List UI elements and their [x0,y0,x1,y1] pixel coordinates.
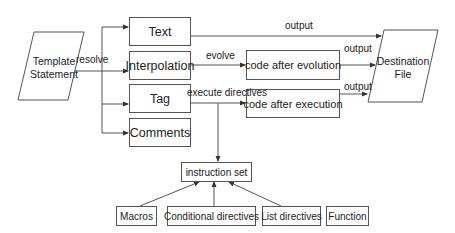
resolve-label: resolve [76,54,108,65]
text-box: Text [129,17,191,46]
template-statement-line2: Statement [28,68,80,81]
macros-box: Macros [116,206,157,226]
template-statement-line1: Template [28,55,80,68]
destination-file-line1: Destination [372,55,434,68]
tag-box: Tag [129,84,191,113]
output-execution-label: output [344,81,372,92]
interpolation-box-label: Interpolation [126,59,195,73]
destination-file: Destination File [372,55,434,81]
function-box: Function [326,206,369,226]
code-after-execution-label: code after execution [243,98,342,110]
list-directives-label: List directives [261,211,322,222]
macros-label: Macros [120,211,153,222]
code-after-evolution-box: code after evolution [246,50,340,80]
code-after-evolution-label: code after evolution [245,59,341,71]
conditional-directives-label: Conditional directives [164,211,259,222]
evolve-label: evolve [206,50,235,61]
instruction-set-label: instruction set [186,167,248,178]
tag-box-label: Tag [150,92,170,106]
template-statement: Template Statement [28,55,80,81]
function-label: Function [328,211,366,222]
comments-box-label: Comments [130,126,190,140]
comments-box: Comments [129,118,191,147]
instruction-set-box: instruction set [181,162,252,182]
conditional-directives-box: Conditional directives [167,206,256,226]
text-box-label: Text [149,25,172,39]
diagram-connectors [0,0,455,233]
list-directives-box: List directives [262,206,321,226]
interpolation-box: Interpolation [129,51,191,80]
output-evolution-label: output [344,43,372,54]
output-text-label: output [285,20,313,31]
destination-file-line2: File [372,68,434,81]
execute-directives-label: execute directives [187,87,267,98]
